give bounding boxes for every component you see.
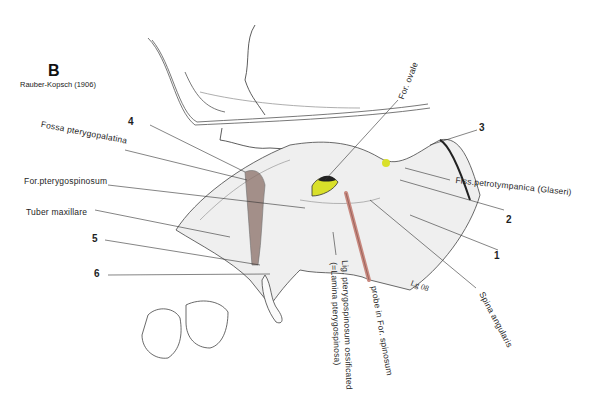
label-number-5: 5 bbox=[92, 233, 98, 244]
label-number-3: 3 bbox=[479, 122, 485, 133]
label-number-1: 1 bbox=[494, 250, 500, 261]
sphenoid-body bbox=[176, 139, 480, 305]
molar-teeth bbox=[142, 301, 228, 358]
source-citation: Rauber-Kopsch (1906) bbox=[20, 80, 96, 89]
label-number-4: 4 bbox=[128, 116, 134, 127]
yellow-marker bbox=[382, 159, 390, 167]
panel-letter: B bbox=[48, 62, 60, 80]
zygomatic-arch bbox=[148, 25, 430, 150]
label-number-6: 6 bbox=[94, 268, 100, 279]
label-tuber-maxillare: Tuber maxillare bbox=[26, 207, 87, 217]
label-number-2: 2 bbox=[506, 214, 512, 225]
artist-signature: Lg 08 bbox=[409, 278, 430, 293]
label-for-pterygospinosum: For.pterygospinosum bbox=[24, 176, 107, 186]
